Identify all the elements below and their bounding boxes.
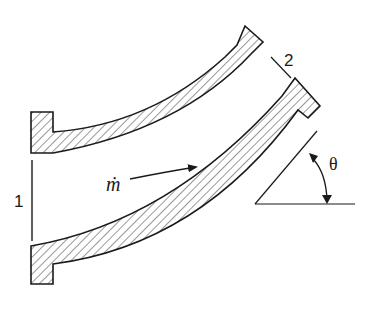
flow-arrow bbox=[130, 167, 196, 179]
mass-flow-label: ṁ bbox=[106, 173, 120, 195]
upper-pipe-wall bbox=[31, 26, 263, 153]
outlet-label: 2 bbox=[284, 51, 293, 70]
inlet-label: 1 bbox=[14, 192, 23, 211]
pipe-bend-diagram: 1 2 ṁ θ bbox=[0, 0, 369, 309]
angle-label: θ bbox=[329, 154, 338, 174]
